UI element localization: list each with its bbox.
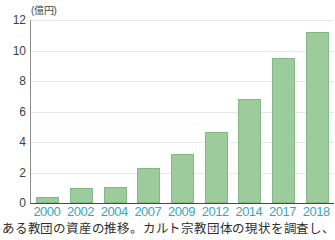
y-tick-label: 0 <box>19 197 26 209</box>
x-tick-label: 2012 <box>198 204 232 220</box>
x-tick-label: 2017 <box>266 204 300 220</box>
y-tick-label: 4 <box>19 136 26 148</box>
y-axis-tick-labels: 12 10 8 6 4 2 0 <box>0 0 30 240</box>
chart-caption: ある教団の資産の推移。カルト宗教団体の現状を調査し、公表。 <box>2 221 335 237</box>
bar-2000 <box>36 197 59 203</box>
bar-slot <box>233 20 267 203</box>
bar-slot <box>65 20 99 203</box>
bar-chart-figure: (億円) 12 10 8 6 4 2 0 2000 2002 2004 2007… <box>0 0 335 240</box>
bar-2004 <box>104 187 127 203</box>
x-axis-tick-labels: 2000 2002 2004 2007 2009 2012 2014 2017 … <box>30 204 333 220</box>
x-tick-label: 2018 <box>299 204 333 220</box>
x-tick-label: 2014 <box>232 204 266 220</box>
x-tick-label: 2004 <box>97 204 131 220</box>
y-tick-label: 10 <box>13 45 26 57</box>
x-tick-label: 2002 <box>64 204 98 220</box>
y-axis-unit-label: (億円) <box>31 5 56 16</box>
bar-slot <box>166 20 200 203</box>
bar-2018 <box>306 32 329 203</box>
bar-slot <box>132 20 166 203</box>
y-tick-label: 6 <box>19 106 26 118</box>
x-tick-label: 2007 <box>131 204 165 220</box>
y-tick-label: 8 <box>19 75 26 87</box>
bar-2012 <box>205 132 228 203</box>
bar-2009 <box>171 154 194 203</box>
bar-series <box>31 20 334 203</box>
plot-area <box>30 20 334 204</box>
y-tick-label: 2 <box>19 167 26 179</box>
bar-slot <box>98 20 132 203</box>
bar-2014 <box>238 99 261 203</box>
bar-2017 <box>272 58 295 203</box>
y-tick-label: 12 <box>13 14 26 26</box>
bar-slot <box>300 20 334 203</box>
bar-slot <box>31 20 65 203</box>
bar-2007 <box>137 168 160 203</box>
x-tick-label: 2000 <box>30 204 64 220</box>
bar-slot <box>199 20 233 203</box>
bar-slot <box>267 20 301 203</box>
bar-2002 <box>70 188 93 203</box>
x-tick-label: 2009 <box>165 204 199 220</box>
